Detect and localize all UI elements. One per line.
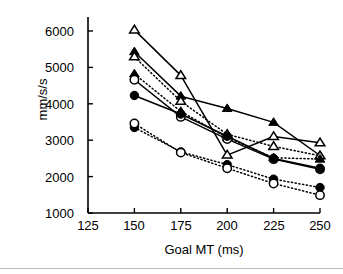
data-point-marker <box>130 119 138 127</box>
data-point-marker <box>130 76 138 84</box>
y-axis-label: mm/s/s <box>35 70 50 130</box>
y-tick-label: 6000 <box>30 25 74 38</box>
x-tick-label: 200 <box>207 219 247 232</box>
figure-container: 6000 5000 4000 3000 2000 1000 125 150 17… <box>0 0 343 274</box>
data-point-marker <box>269 179 277 187</box>
data-point-marker <box>223 132 231 140</box>
data-point-marker <box>130 25 140 33</box>
data-point-marker <box>269 132 279 140</box>
footer-rule <box>0 268 343 269</box>
y-tick-label: 3000 <box>30 134 74 147</box>
x-tick-label: 125 <box>68 219 108 232</box>
x-tick-label: 225 <box>254 219 294 232</box>
data-point-marker <box>130 91 138 99</box>
data-point-marker <box>177 148 185 156</box>
data-series <box>130 69 325 162</box>
data-point-marker <box>177 110 185 118</box>
series-line <box>134 74 320 159</box>
x-tick-label: 175 <box>161 219 201 232</box>
x-tick-label: 250 <box>300 219 340 232</box>
y-tick-label: 2000 <box>30 171 74 184</box>
data-point-marker <box>316 164 324 172</box>
x-tick-label: 150 <box>114 219 154 232</box>
data-point-marker <box>223 164 231 172</box>
data-point-marker <box>269 154 277 162</box>
data-point-marker <box>269 142 279 150</box>
data-series-group <box>130 25 325 199</box>
y-axis-tick-labels: 6000 5000 4000 3000 2000 1000 <box>28 0 74 274</box>
data-point-marker <box>316 191 324 199</box>
x-axis-label: Goal MT (ms) <box>88 242 320 257</box>
